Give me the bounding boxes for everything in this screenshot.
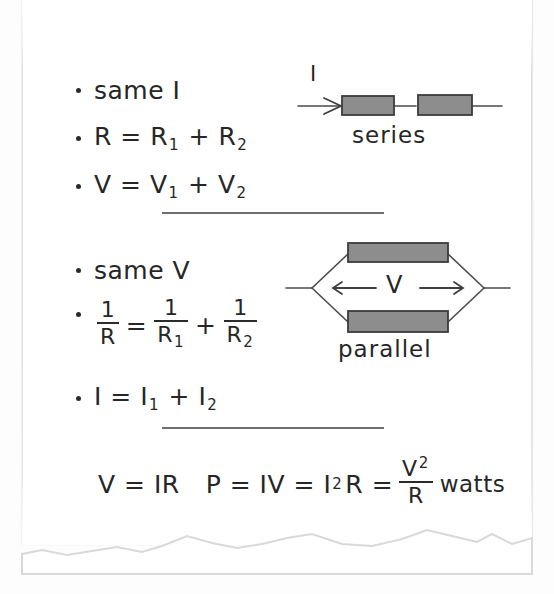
bottom-equations-row: V = IR P = IV = I2R = V2 R watts: [98, 458, 505, 510]
eq-prefix: V = V: [94, 170, 168, 199]
fraction-numerator: 1: [98, 298, 119, 321]
wire-upper-right: [448, 254, 484, 288]
power-exponent: 2: [331, 475, 343, 493]
wire-lower-right: [448, 288, 484, 322]
bullet-dot: [76, 184, 81, 189]
eq-subscript-2: 2: [236, 136, 248, 154]
fraction-one-over-r: 1 R: [97, 298, 119, 349]
series-voltage-equation: V = V1 + V2: [94, 172, 248, 201]
parallel-bullet-same-v: same V: [76, 258, 190, 283]
parallel-bullet-current: I = I1 + I2: [76, 384, 218, 413]
fraction-denominator: R: [405, 484, 427, 508]
series-bullet-voltage: V = V1 + V2: [76, 172, 248, 201]
power-units: watts: [440, 471, 505, 497]
wire-lower-left: [312, 288, 348, 322]
fraction-one-over-r2: 1 R2: [224, 296, 258, 351]
section-divider-1: [162, 212, 384, 214]
equals-sign: =: [126, 313, 147, 338]
bullet-dot: [76, 136, 81, 141]
fraction-denominator: R1: [154, 323, 188, 351]
num-exponent: 2: [418, 454, 430, 472]
parallel-voltage-label: V: [386, 271, 403, 299]
bullet-dot: [76, 396, 81, 401]
power-equation: P = IV = I2R = V2 R watts: [206, 458, 505, 510]
den-symbol: R: [227, 322, 243, 347]
eq-prefix: I = I: [94, 382, 148, 411]
num-symbol: V: [402, 456, 418, 481]
resistor-2: [418, 95, 472, 115]
resistor-1: [342, 96, 394, 115]
ohms-law-equation: V = IR: [98, 470, 180, 499]
plus-sign: +: [195, 313, 216, 338]
eq-subscript-1: 1: [168, 136, 180, 154]
series-current-label: I: [310, 62, 317, 86]
bullet-dot: [76, 268, 81, 273]
fraction-one-over-r1: 1 R1: [154, 296, 188, 351]
parallel-same-v-text: same V: [94, 258, 190, 283]
torn-paper-edge: [22, 524, 532, 574]
series-bullet-resistance: R = R1 + R2: [76, 124, 248, 153]
series-resistance-equation: R = R1 + R2: [94, 124, 248, 153]
eq-subscript-1: 1: [148, 396, 160, 414]
fraction-numerator: 1: [161, 296, 182, 319]
den-subscript: 2: [242, 333, 254, 351]
eq-subscript-2: 2: [236, 184, 248, 202]
eq-subscript-2: 2: [206, 396, 218, 414]
series-bullet-same-i: same I: [76, 78, 180, 103]
bullet-dot: [76, 312, 81, 317]
parallel-caption: parallel: [338, 336, 432, 362]
fraction-denominator: R: [97, 325, 119, 349]
fraction-denominator: R2: [224, 323, 258, 351]
eq-mid: + V: [180, 170, 236, 199]
eq-mid: + I: [160, 382, 206, 411]
paper-left-edge: [22, 6, 23, 534]
parallel-reciprocal-equation: 1 R = 1 R1 + 1 R2: [94, 298, 260, 353]
fraction-numerator: V2: [399, 456, 433, 480]
series-circuit-diagram: I series: [296, 66, 506, 128]
eq-subscript-1: 1: [168, 184, 180, 202]
parallel-circuit-diagram: V parallel: [286, 238, 510, 338]
torn-edge-path: [22, 530, 532, 574]
series-caption: series: [352, 122, 426, 148]
den-symbol: R: [157, 322, 173, 347]
fraction-v-squared-over-r: V2 R: [399, 456, 433, 508]
resistor-top: [348, 243, 448, 262]
series-same-i-text: same I: [94, 78, 180, 103]
parallel-current-equation: I = I1 + I2: [94, 384, 218, 413]
eq-mid: + R: [180, 122, 236, 151]
fraction-numerator: 1: [230, 296, 251, 319]
paper-right-edge: [531, 22, 532, 527]
section-divider-2: [162, 427, 384, 429]
resistor-bottom: [348, 311, 448, 332]
parallel-bullet-reciprocal: 1 R = 1 R1 + 1 R2: [76, 298, 260, 353]
power-mid: R =: [345, 470, 393, 499]
den-subscript: 1: [173, 333, 185, 351]
power-prefix: P = IV = I: [206, 470, 332, 499]
bullet-dot: [76, 88, 81, 93]
wire-upper-left: [312, 254, 348, 288]
eq-prefix: R = R: [94, 122, 168, 151]
notes-page: same I R = R1 + R2 V = V1 + V2 I series …: [0, 0, 554, 594]
